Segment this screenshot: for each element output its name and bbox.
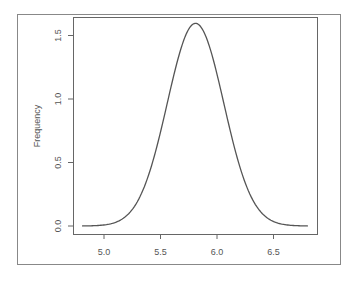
y-tick-labels: 0.0 0.5 1.0 1.5: [53, 29, 63, 232]
x-tick-label: 5.0: [98, 247, 111, 257]
density-chart: 5.0 5.5 6.0 6.5 0.0 0.5 1.0 1.5 Frequenc…: [0, 0, 354, 282]
y-axis-title: Frequency: [32, 104, 42, 147]
plot-area: [74, 18, 318, 235]
y-axis: [68, 36, 73, 227]
y-tick-label: 0.0: [53, 220, 63, 233]
y-tick-label: 1.0: [53, 93, 63, 106]
y-tick-label: 0.5: [53, 156, 63, 169]
y-tick-label: 1.5: [53, 29, 63, 42]
x-tick-labels: 5.0 5.5 6.0 6.5: [98, 247, 280, 257]
x-tick-label: 5.5: [154, 247, 167, 257]
x-tick-label: 6.0: [211, 247, 224, 257]
x-tick-label: 6.5: [267, 247, 280, 257]
